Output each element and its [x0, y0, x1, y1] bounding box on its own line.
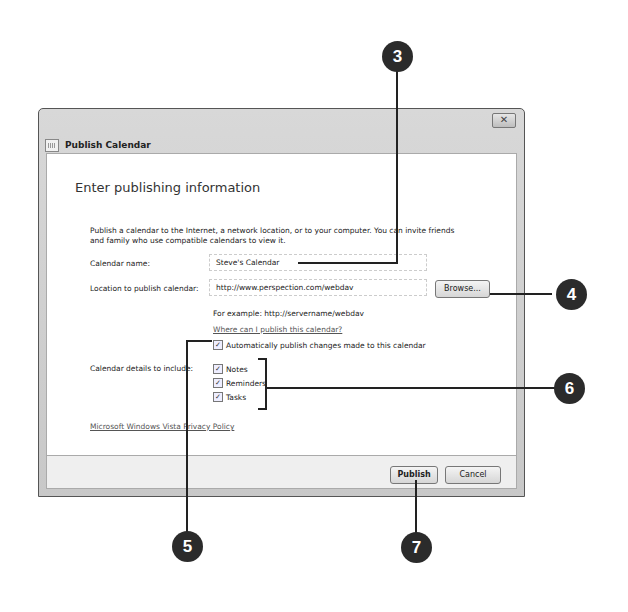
- auto-publish-label: Automatically publish changes made to th…: [226, 341, 426, 350]
- title-bar: Publish Calendar: [45, 137, 151, 153]
- close-icon: ✕: [500, 114, 508, 125]
- checkbox-checked-icon: ✓: [213, 364, 223, 374]
- reminders-label: Reminders: [226, 379, 266, 388]
- callout-7: 7: [401, 532, 432, 563]
- calendar-icon: [45, 139, 59, 152]
- notes-checkbox[interactable]: ✓ Notes: [213, 364, 248, 374]
- callout-line-5: [186, 340, 188, 538]
- checkbox-checked-icon: ✓: [213, 378, 223, 388]
- description-text: Publish a calendar to the Internet, a ne…: [90, 226, 470, 246]
- browse-button[interactable]: Browse...: [435, 280, 490, 298]
- callout-5: 5: [172, 531, 203, 562]
- page-heading: Enter publishing information: [75, 180, 260, 195]
- location-label: Location to publish calendar:: [90, 284, 199, 293]
- callout-line-7: [415, 480, 417, 540]
- callout-line-6: [266, 387, 556, 389]
- publish-calendar-dialog: ✕ Publish Calendar Enter publishing info…: [38, 108, 525, 497]
- callout-4: 4: [556, 279, 587, 310]
- where-can-i-publish-link[interactable]: Where can I publish this calendar?: [213, 325, 342, 334]
- calendar-name-label: Calendar name:: [90, 259, 150, 268]
- callout-bracket-6: [265, 358, 267, 410]
- tasks-label: Tasks: [226, 393, 246, 402]
- callout-bracket-6: [258, 408, 267, 410]
- auto-publish-checkbox[interactable]: ✓ Automatically publish changes made to …: [213, 340, 426, 350]
- callout-6: 6: [554, 373, 585, 404]
- tasks-checkbox[interactable]: ✓ Tasks: [213, 392, 246, 402]
- window-title: Publish Calendar: [65, 140, 151, 150]
- callout-3: 3: [382, 41, 413, 72]
- dialog-content: Enter publishing information Publish a c…: [46, 153, 517, 456]
- checkbox-checked-icon: ✓: [213, 392, 223, 402]
- callout-line-5: [186, 340, 212, 342]
- notes-label: Notes: [226, 365, 248, 374]
- callout-line-3: [396, 70, 398, 263]
- example-text: For example: http://servername/webdav: [213, 309, 364, 318]
- cancel-button[interactable]: Cancel: [445, 466, 501, 484]
- callout-line-4: [490, 293, 552, 295]
- callout-line-3: [298, 262, 398, 264]
- checkbox-checked-icon: ✓: [213, 340, 223, 350]
- publish-button[interactable]: Publish: [390, 466, 438, 484]
- privacy-policy-link[interactable]: Microsoft Windows Vista Privacy Policy: [90, 422, 234, 431]
- close-button[interactable]: ✕: [492, 113, 516, 128]
- location-input[interactable]: http://www.perspection.com/webdav: [209, 279, 427, 296]
- details-label: Calendar details to include:: [90, 364, 193, 373]
- button-bar: Publish Cancel: [46, 456, 517, 489]
- reminders-checkbox[interactable]: ✓ Reminders: [213, 378, 266, 388]
- callout-bracket-6: [258, 358, 267, 360]
